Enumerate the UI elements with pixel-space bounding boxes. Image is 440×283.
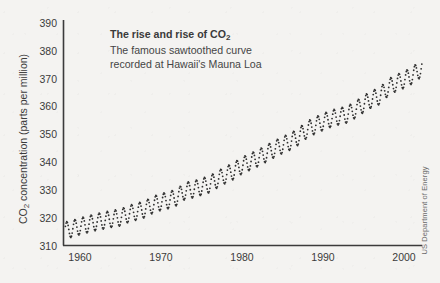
chart-annotation: The rise and rise of CO2 The famous sawt… [110,27,340,72]
x-tick-label: 1990 [311,252,334,263]
x-tick-label: 2000 [392,252,415,263]
y-axis-title-subscript: 2 [22,204,31,208]
chart-figure: 310320330340350360370380390 196019701980… [0,0,440,283]
y-axis-title: CO2 concentration (parts per million) [17,34,29,244]
annotation-title: The rise and rise of CO2 [110,27,340,43]
annotation-line-3: recorded at Hawaii's Mauna Loa [110,57,340,71]
annotation-line-2: The famous sawtoothed curve [110,43,340,57]
y-axis-title-post: concentration (parts per million) [17,54,29,204]
source-credit: US Department of Energy [420,136,429,283]
x-tick-label: 1970 [149,252,172,263]
y-axis-title-pre: CO [17,208,29,224]
annotation-title-text: The rise and rise of CO [110,28,226,40]
annotation-title-subscript: 2 [226,33,230,42]
x-tick-label: 1960 [68,252,91,263]
x-tick-label: 1980 [230,252,253,263]
